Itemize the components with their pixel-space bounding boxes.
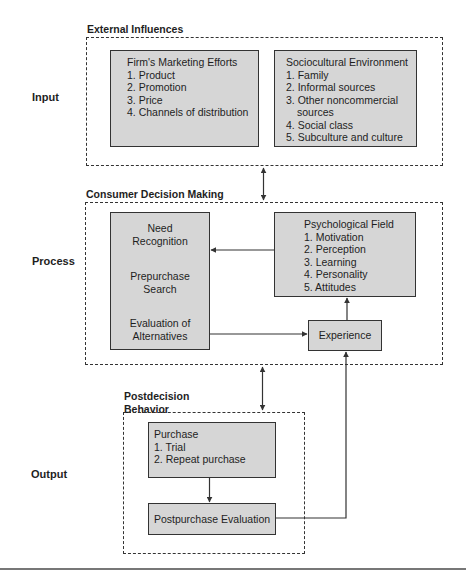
bottom-divider <box>0 568 466 570</box>
postpurchase-to-experience-arrow <box>276 352 346 518</box>
connector-arrows <box>0 0 470 586</box>
